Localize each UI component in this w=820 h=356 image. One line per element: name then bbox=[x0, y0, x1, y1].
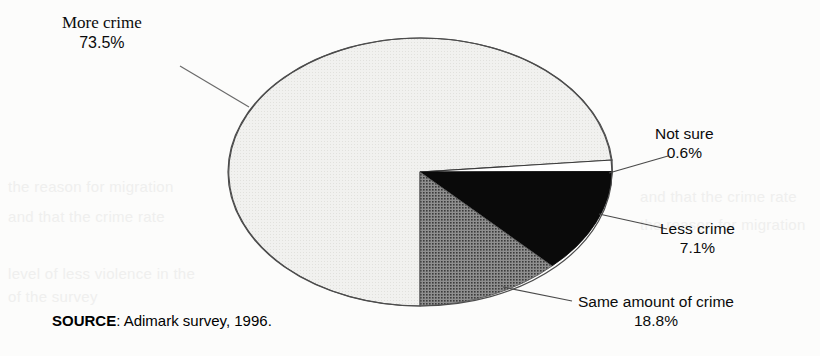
label-same-amount-value: 18.8% bbox=[578, 311, 734, 330]
label-not-sure: Not sure 0.6% bbox=[655, 124, 714, 162]
source-note-prefix: SOURCE bbox=[52, 312, 116, 329]
label-same-amount-name: Same amount of crime bbox=[578, 293, 734, 310]
label-not-sure-value: 0.6% bbox=[655, 143, 714, 162]
label-less-crime-name: Less crime bbox=[660, 220, 735, 237]
label-more-crime-name: More crime bbox=[62, 13, 142, 32]
label-same-amount: Same amount of crime 18.8% bbox=[578, 292, 734, 330]
source-note: SOURCE: Adimark survey, 1996. bbox=[52, 312, 272, 329]
label-less-crime-value: 7.1% bbox=[660, 238, 735, 257]
label-more-crime: More crime 73.5% bbox=[62, 13, 142, 53]
figure-pie-chart-crime-perception: the reason for migration and that the cr… bbox=[0, 0, 820, 356]
label-not-sure-name: Not sure bbox=[655, 125, 714, 142]
leader-line-more-crime bbox=[180, 66, 249, 107]
label-less-crime: Less crime 7.1% bbox=[660, 219, 735, 257]
source-note-text: : Adimark survey, 1996. bbox=[116, 312, 272, 329]
label-more-crime-value: 73.5% bbox=[62, 33, 142, 53]
leader-line-same-amount bbox=[503, 287, 572, 301]
leader-line-less-crime bbox=[599, 214, 667, 229]
